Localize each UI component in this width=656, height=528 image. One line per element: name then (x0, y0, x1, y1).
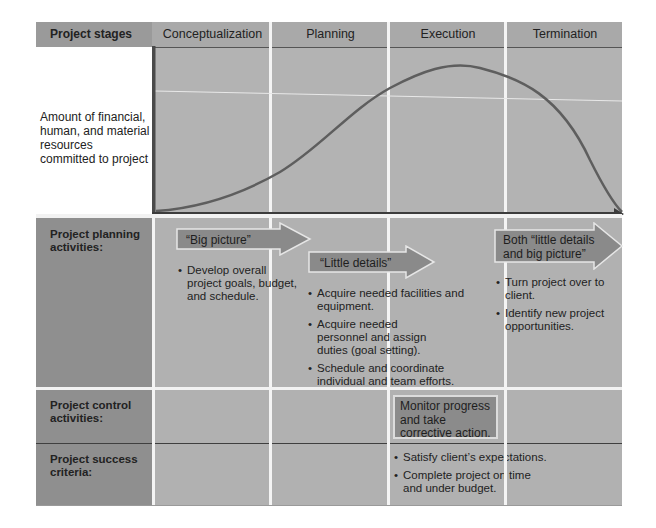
column-divider-3d (504, 390, 507, 505)
bullet-item: Acquire needed facilities and equipment. (308, 287, 488, 313)
conceptualization-bullets: Develop overall project goals, budget, a… (178, 264, 298, 308)
success-label-cell: Project success criteria: (36, 444, 152, 505)
termination-bullets: Turn project over to client. Identify ne… (496, 276, 611, 338)
planning-bullets: Acquire needed facilities and equipment.… (308, 287, 488, 393)
bullet-item: Schedule and coordinate individual and t… (308, 362, 488, 388)
bullet-item: Turn project over to client. (496, 276, 611, 302)
bullet-item: Complete project on time and under budge… (394, 469, 543, 495)
bullet-item: Identify new project opportunities. (496, 307, 611, 333)
column-divider-1d (269, 390, 272, 505)
big-picture-label: “Big picture” (186, 234, 251, 248)
bullet-item: Develop overall project goals, budget, a… (178, 264, 298, 303)
success-bullets: Satisfy client’s expectations. Complete … (394, 451, 569, 500)
table-bottom-border (36, 505, 622, 506)
planning-label-cell: Project planning activities: (36, 218, 152, 387)
planning-row-label: Project planning activities: (36, 218, 146, 254)
monitor-progress-box: Monitor progress and take corrective act… (393, 395, 498, 439)
bullet-item: Satisfy client’s expectations. (394, 451, 569, 464)
both-details-label: Both “little details and big picture” (503, 234, 603, 261)
column-divider-1c (152, 218, 155, 505)
column-divider-2d (387, 390, 390, 505)
success-row-label: Project success criteria: (36, 444, 146, 479)
control-row-label: Project control activities: (36, 390, 146, 425)
control-label-cell: Project control activities: (36, 390, 152, 443)
row-gap-1 (36, 214, 622, 218)
little-details-label: “Little details” (320, 257, 391, 271)
bullet-item: Acquire needed personnel and assign duti… (308, 318, 437, 357)
